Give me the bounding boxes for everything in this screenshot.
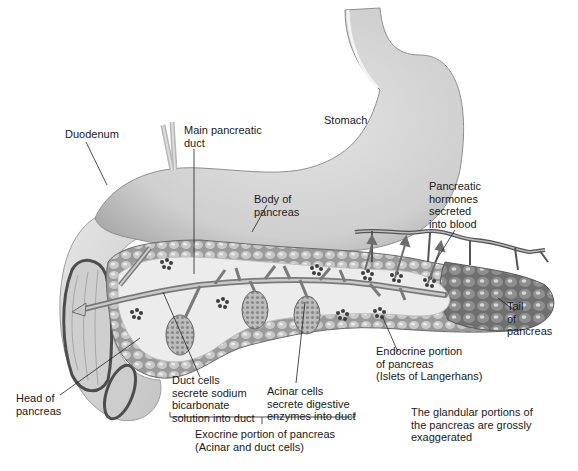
label-line: hormones: [429, 193, 481, 206]
label-line: pancreas: [507, 325, 552, 338]
label-line: Duodenum: [65, 128, 119, 141]
label-line: of pancreas: [376, 358, 482, 371]
label-endocrine-portion: Endocrine portionof pancreas(Islets of L…: [376, 345, 482, 383]
label-line: Duct cells: [172, 374, 255, 387]
label-line: duct: [184, 137, 262, 150]
label-line: (Islets of Langerhans): [376, 370, 482, 383]
label-main-pancreatic-duct: Main pancreaticduct: [184, 124, 262, 149]
label-line: secreted: [429, 205, 481, 218]
label-head-of-pancreas: Head ofpancreas: [16, 392, 61, 417]
label-line: Pancreatic: [429, 180, 481, 193]
label-line: secrete digestive: [267, 398, 356, 411]
pancreas-diagram: Duodenum Main pancreaticduct Stomach Bod…: [0, 0, 578, 471]
label-line: Body of: [254, 193, 299, 206]
label-line: into blood: [429, 218, 481, 231]
label-line: secrete sodium: [172, 387, 255, 400]
label-exocrine-portion: Exocrine portion of pancreas(Acinar and …: [195, 428, 335, 453]
label-line: Main pancreatic: [184, 124, 262, 137]
label-line: (Acinar and duct cells): [195, 441, 335, 454]
label-line: solution into duct: [172, 412, 255, 425]
label-line: bicarbonate: [172, 399, 255, 412]
label-line: pancreas: [16, 405, 61, 418]
label-line: Head of: [16, 392, 61, 405]
label-acinar-cells: Acinar cellssecrete digestiveenzymes int…: [267, 385, 356, 423]
label-line: Acinar cells: [267, 385, 356, 398]
duodenum-wall: [64, 260, 112, 390]
label-body-of-pancreas: Body ofpancreas: [254, 193, 299, 218]
note-glandular-exaggerated: The glandular portions ofthe pancreas ar…: [411, 406, 533, 444]
label-pancreatic-hormones: Pancreatichormonessecretedinto blood: [429, 180, 481, 230]
label-line: Endocrine portion: [376, 345, 482, 358]
label-stomach: Stomach: [324, 114, 367, 127]
label-line: The glandular portions of: [411, 406, 533, 419]
label-duodenum: Duodenum: [65, 128, 119, 141]
label-tail-of-pancreas: Tailofpancreas: [507, 300, 552, 338]
label-line: enzymes into duct: [267, 410, 356, 423]
label-line: exaggerated: [411, 431, 533, 444]
label-duct-cells: Duct cellssecrete sodiumbicarbonatesolut…: [172, 374, 255, 424]
label-line: Stomach: [324, 114, 367, 127]
label-line: Tail: [507, 300, 552, 313]
label-line: the pancreas are grossly: [411, 419, 533, 432]
label-line: of: [507, 313, 552, 326]
label-line: pancreas: [254, 206, 299, 219]
label-line: Exocrine portion of pancreas: [195, 428, 335, 441]
